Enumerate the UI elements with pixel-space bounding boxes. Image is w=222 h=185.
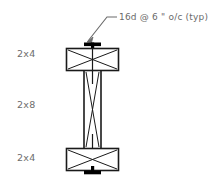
member-label-bottom-2x4: 2x4 (17, 152, 36, 163)
member-label-top-2x4: 2x4 (17, 48, 36, 59)
member-label-middle-2x8: 2x8 (17, 99, 36, 110)
bottom-nail-shank-icon (91, 166, 94, 173)
callout-group (87, 17, 117, 43)
fastener-callout-label: 16d @ 6 " o/c (typ) (119, 12, 208, 22)
drawing-canvas: 16d @ 6 " o/c (typ) 2x4 2x8 2x4 (0, 0, 222, 185)
